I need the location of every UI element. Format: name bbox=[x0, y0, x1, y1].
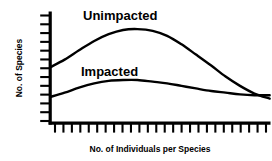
curve-label-impacted: Impacted bbox=[81, 64, 138, 79]
y-axis-label: No. of Species bbox=[14, 38, 24, 97]
species-abundance-chart: Unimpacted Impacted No. of Species No. o… bbox=[0, 0, 272, 161]
x-axis-label: No. of Individuals per Species bbox=[90, 144, 211, 154]
curve-label-unimpacted: Unimpacted bbox=[83, 8, 157, 23]
